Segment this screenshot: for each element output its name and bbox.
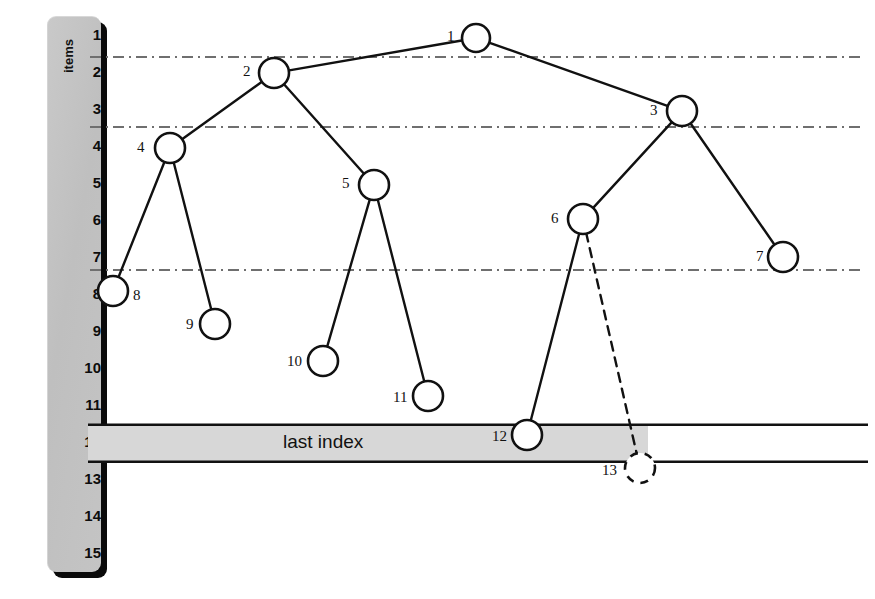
tree-node-11[interactable] (413, 381, 443, 411)
edge-6-13 (586, 233, 637, 455)
diagram-canvas: items 123456789101112131415 last index 1… (0, 0, 875, 599)
node-label-10: 10 (287, 354, 302, 369)
edge-4-9 (173, 162, 211, 311)
tree-node-7[interactable] (768, 242, 798, 272)
tree-node-8[interactable] (98, 276, 128, 306)
tree-node-5[interactable] (359, 170, 389, 200)
node-label-2: 2 (243, 64, 251, 79)
tree-vector-layer (0, 0, 875, 599)
node-label-9: 9 (186, 317, 194, 332)
edge-5-10 (327, 198, 370, 347)
node-label-6: 6 (551, 211, 559, 226)
tree-node-12[interactable] (512, 420, 542, 450)
tree-node-10[interactable] (308, 346, 338, 376)
edge-4-8 (118, 161, 165, 278)
tree-node-6[interactable] (568, 204, 598, 234)
edge-2-4 (181, 81, 262, 140)
edge-6-12 (531, 233, 580, 422)
tree-node-2[interactable] (259, 58, 289, 88)
node-label-7: 7 (756, 249, 764, 264)
tree-node-9[interactable] (200, 309, 230, 339)
level-line-group (90, 57, 860, 270)
tree-node-1[interactable] (462, 24, 490, 52)
tree-node-13[interactable] (625, 453, 655, 483)
last-index-band (88, 425, 868, 462)
edge-1-2 (288, 40, 463, 70)
tree-node-4[interactable] (155, 133, 185, 163)
node-label-13: 13 (602, 463, 617, 478)
node-group (98, 24, 798, 483)
last-index-label: last index (283, 431, 363, 453)
node-label-11: 11 (393, 390, 407, 405)
tree-node-3[interactable] (667, 96, 697, 126)
band-fill (88, 425, 648, 462)
edge-3-6 (592, 121, 672, 208)
node-label-4: 4 (137, 140, 145, 155)
node-label-1: 1 (447, 29, 455, 44)
edge-2-5 (283, 83, 364, 174)
node-label-12: 12 (492, 429, 507, 444)
edge-1-3 (488, 42, 669, 106)
edge-5-11 (377, 199, 424, 383)
edge-3-7 (690, 123, 775, 246)
node-label-3: 3 (650, 103, 658, 118)
node-label-5: 5 (342, 176, 350, 191)
node-label-8: 8 (133, 288, 141, 303)
